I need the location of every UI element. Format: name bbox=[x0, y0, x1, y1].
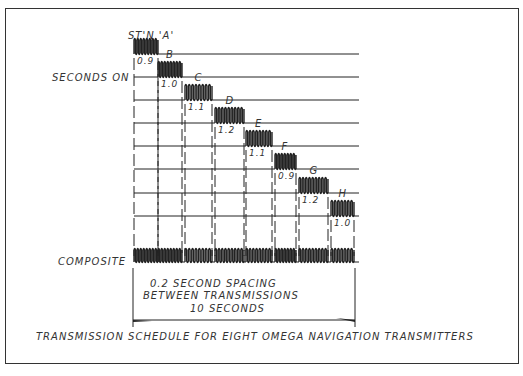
spacing-label-1: 0.2 SECOND SPACING bbox=[150, 278, 277, 289]
composite-burst-f bbox=[275, 249, 296, 263]
signal-burst-h bbox=[331, 201, 354, 217]
station-a-label: ST'N 'A' bbox=[128, 30, 174, 41]
period-label: 10 SECONDS bbox=[190, 303, 265, 314]
station-label-c: C bbox=[195, 72, 203, 83]
composite-burst-c bbox=[185, 249, 212, 263]
seconds-on-g: 1.2 bbox=[302, 195, 319, 205]
composite-burst-h bbox=[331, 249, 354, 263]
composite-burst-b bbox=[158, 249, 182, 263]
station-label-f: F bbox=[282, 141, 289, 152]
seconds-on-f: 0.9 bbox=[278, 171, 295, 181]
station-label-d: D bbox=[226, 95, 235, 106]
signal-burst-d bbox=[215, 108, 244, 124]
seconds-on-a: 0.9 bbox=[137, 56, 154, 66]
station-label-b: B bbox=[166, 49, 174, 60]
signal-burst-b bbox=[158, 62, 182, 78]
composite-burst-a bbox=[134, 249, 158, 263]
signal-burst-g bbox=[299, 178, 328, 194]
seconds-on-h: 1.0 bbox=[334, 218, 351, 228]
composite-burst-g bbox=[299, 249, 328, 263]
station-label-h: H bbox=[339, 188, 348, 199]
signal-burst-f bbox=[275, 154, 296, 170]
seconds-on-b: 1.0 bbox=[161, 79, 178, 89]
station-label-e: E bbox=[255, 118, 262, 129]
seconds-on-e: 1.1 bbox=[249, 148, 266, 158]
signal-burst-c bbox=[185, 85, 212, 101]
seconds-on-label: SECONDS ON bbox=[52, 72, 130, 83]
seconds-on-c: 1.1 bbox=[188, 102, 205, 112]
spacing-label-2: BETWEEN TRANSMISSIONS bbox=[143, 290, 299, 301]
signal-burst-e bbox=[246, 131, 272, 147]
signal-diagram bbox=[0, 0, 523, 376]
composite-burst-e bbox=[246, 249, 272, 263]
composite-burst-d bbox=[215, 249, 244, 263]
caption: TRANSMISSION SCHEDULE FOR EIGHT OMEGA NA… bbox=[36, 331, 474, 342]
station-label-g: G bbox=[310, 165, 319, 176]
seconds-on-d: 1.2 bbox=[218, 125, 235, 135]
composite-label: COMPOSITE bbox=[58, 256, 126, 267]
